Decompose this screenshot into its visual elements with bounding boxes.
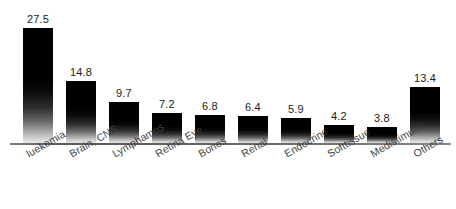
bar-value-label: 7.2 xyxy=(152,98,182,111)
bar-value-label: 6.4 xyxy=(238,101,268,114)
bar-value-label: 9.7 xyxy=(109,87,139,100)
bar-group: 6.8 xyxy=(195,0,225,143)
bar-value-label: 13.4 xyxy=(410,72,440,85)
bar-chart: 27.514.89.77.26.86.45.94.23.813.4 luekem… xyxy=(0,0,456,209)
bar xyxy=(23,28,53,143)
bar-group: 5.9 xyxy=(281,0,311,143)
bar-value-label: 4.2 xyxy=(324,110,354,123)
bar-group: 3.8 xyxy=(367,0,397,143)
plot-area: 27.514.89.77.26.86.45.94.23.813.4 xyxy=(0,0,456,143)
bar-group: 27.5 xyxy=(23,0,53,143)
bar-value-label: 27.5 xyxy=(23,13,53,26)
bar-group: 4.2 xyxy=(324,0,354,143)
bar-value-label: 5.9 xyxy=(281,103,311,116)
bar-value-label: 3.8 xyxy=(367,112,397,125)
bar-value-label: 6.8 xyxy=(195,100,225,113)
bar-group: 14.8 xyxy=(66,0,96,143)
category-axis-labels: luekemiaBrain, CNSLymphamosRetina EyeBon… xyxy=(0,143,456,209)
bar-value-label: 14.8 xyxy=(66,66,96,79)
bar-group: 6.4 xyxy=(238,0,268,143)
